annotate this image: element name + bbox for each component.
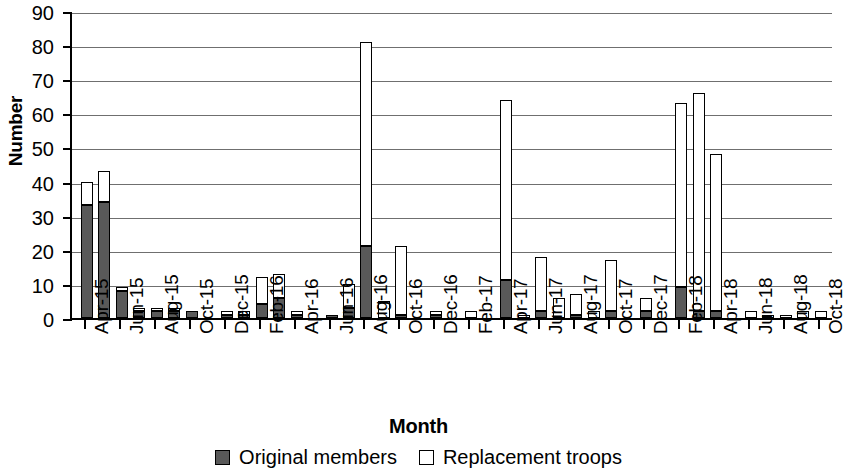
- x-tick-mark: [643, 320, 645, 329]
- x-tick-mark: [189, 320, 191, 329]
- x-tick-label: Feb-16: [267, 276, 286, 334]
- x-tick-mark: [818, 320, 820, 329]
- gridline: [72, 81, 832, 82]
- chart-legend: Original membersReplacement troops: [0, 446, 837, 469]
- x-tick-label: Apr-18: [721, 279, 740, 334]
- x-tick-mark: [154, 320, 156, 329]
- x-tick-mark: [84, 320, 86, 329]
- x-tick-label: Apr-15: [92, 279, 111, 334]
- x-tick-mark: [503, 320, 505, 329]
- x-tick-mark: [119, 320, 121, 329]
- x-tick-mark: [783, 320, 785, 329]
- y-tick-label: 70: [8, 71, 54, 91]
- x-tick-mark: [468, 320, 470, 329]
- x-tick-mark: [538, 320, 540, 329]
- x-tick-mark: [398, 320, 400, 329]
- x-tick-label: Oct-15: [197, 279, 216, 334]
- y-tick-mark: [63, 80, 72, 82]
- y-tick-mark: [63, 319, 72, 321]
- bar-segment-replacement-troops: [675, 103, 687, 287]
- y-tick-label: 10: [8, 276, 54, 296]
- y-tick-mark: [63, 217, 72, 219]
- bar-segment-replacement-troops: [360, 42, 372, 247]
- legend-label: Replacement troops: [443, 446, 622, 469]
- x-tick-label: Jun-17: [546, 278, 565, 334]
- x-tick-mark: [573, 320, 575, 329]
- bar-segment-replacement-troops: [500, 100, 512, 281]
- x-axis-title: Month: [0, 415, 837, 438]
- x-tick-mark: [329, 320, 331, 329]
- gridline: [72, 149, 832, 150]
- y-tick-mark: [63, 46, 72, 48]
- legend-label: Original members: [239, 446, 397, 469]
- x-tick-mark: [678, 320, 680, 329]
- x-tick-label: Apr-16: [302, 279, 321, 334]
- x-tick-mark: [713, 320, 715, 329]
- x-tick-label: Aug-18: [791, 275, 810, 334]
- y-tick-mark: [63, 12, 72, 14]
- y-tick-label: 30: [8, 208, 54, 228]
- x-tick-label: Feb-17: [476, 276, 495, 334]
- x-tick-mark: [224, 320, 226, 329]
- y-tick-mark: [63, 114, 72, 116]
- x-tick-mark: [608, 320, 610, 329]
- y-tick-label: 80: [8, 37, 54, 57]
- y-tick-mark: [63, 285, 72, 287]
- y-tick-label: 0: [8, 310, 54, 330]
- x-tick-label: Oct-18: [826, 279, 845, 334]
- y-tick-label: 50: [8, 139, 54, 159]
- x-tick-mark: [748, 320, 750, 329]
- gridline: [72, 13, 832, 14]
- y-tick-label: 20: [8, 242, 54, 262]
- x-tick-label: Aug-16: [371, 275, 390, 334]
- x-tick-label: Jun-18: [756, 278, 775, 334]
- bar-segment-replacement-troops: [81, 182, 93, 206]
- x-tick-label: Aug-15: [162, 275, 181, 334]
- x-tick-label: Dec-16: [441, 275, 460, 334]
- x-tick-label: Jun-16: [337, 278, 356, 334]
- gridline: [72, 47, 832, 48]
- x-tick-label: Dec-15: [232, 275, 251, 334]
- x-tick-label: Oct-16: [406, 279, 425, 334]
- x-tick-mark: [259, 320, 261, 329]
- y-tick-label: 60: [8, 105, 54, 125]
- y-tick-label: 40: [8, 174, 54, 194]
- y-tick-mark: [63, 251, 72, 253]
- x-tick-label: Oct-17: [616, 279, 635, 334]
- gridline: [72, 115, 832, 116]
- legend-swatch-original-icon: [215, 450, 230, 465]
- bar-segment-replacement-troops: [98, 171, 110, 202]
- y-tick-mark: [63, 183, 72, 185]
- x-tick-label: Dec-17: [651, 275, 670, 334]
- y-tick-mark: [63, 148, 72, 150]
- legend-item-replacement: Replacement troops: [419, 446, 622, 469]
- x-tick-mark: [294, 320, 296, 329]
- legend-swatch-replacement-icon: [419, 450, 434, 465]
- x-tick-mark: [433, 320, 435, 329]
- x-tick-label: Apr-17: [511, 279, 530, 334]
- x-tick-label: Aug-17: [581, 275, 600, 334]
- x-tick-label: Jun-15: [127, 278, 146, 334]
- legend-item-original: Original members: [215, 446, 397, 469]
- x-tick-label: Feb-18: [686, 276, 705, 334]
- y-tick-label: 90: [8, 3, 54, 23]
- x-tick-mark: [363, 320, 365, 329]
